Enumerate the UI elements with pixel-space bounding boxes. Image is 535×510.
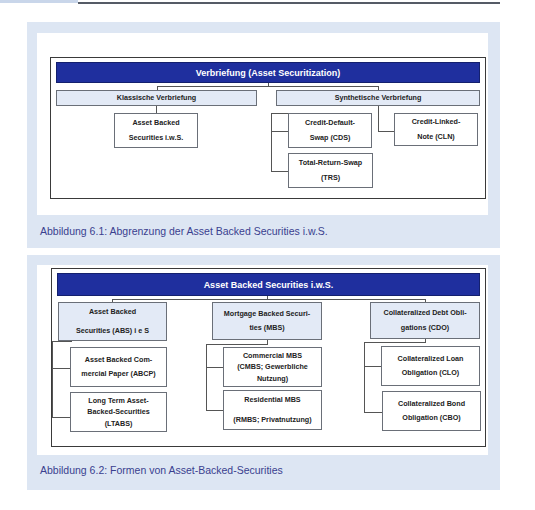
connector [271, 113, 289, 114]
connector [206, 410, 223, 411]
box-residential-mbs: Residential MBS (RMBS; Privatnutzung) [223, 390, 322, 430]
connector [364, 342, 365, 412]
connector [112, 299, 426, 300]
box-commercial-mbs: Commercial MBS (CMBS; Gewerbliche Nutzun… [223, 347, 322, 387]
connector [271, 113, 272, 171]
connector [364, 366, 381, 367]
box-long-term-asset-backed-securities: Long Term Asset- Backed-Securities (LTAB… [70, 392, 167, 432]
connector [206, 344, 268, 345]
connector [364, 412, 382, 413]
box-total-return-swap: Total-Return-Swap (TRS) [288, 153, 373, 188]
connector [271, 171, 288, 172]
figure-2-header: Asset Backed Securities i.w.S. [57, 273, 480, 296]
connector [268, 83, 269, 86]
connector [364, 342, 426, 343]
figure-1-header: Verbriefung (Asset Securitization) [56, 62, 480, 83]
connector [156, 106, 157, 113]
category-mortgage-backed-securities: Mortgage Backed Securi- ties (MBS) [212, 302, 322, 340]
connector [267, 340, 268, 344]
connector [206, 344, 207, 410]
connector [52, 341, 53, 417]
connector [378, 131, 394, 132]
figure-2-caption: Abbildung 6.2: Formen von Asset-Backed-S… [40, 464, 283, 476]
connector [206, 367, 223, 368]
box-asset-backed-commercial-paper: Asset Backed Com- mercial Paper (ABCP) [70, 347, 167, 387]
category-collateralized-debt-obligations: Collateralized Debt Obli- gations (CDO) [370, 302, 480, 339]
connector [52, 417, 70, 418]
box-collateralized-loan-obligation: Collateralized Loan Obligation (CLO) [381, 346, 480, 386]
page-top-rule [78, 2, 500, 4]
box-asset-backed-securities-iws: Asset Backed Securities i.w.S. [114, 113, 198, 148]
figure-1-caption: Abbildung 6.1: Abgrenzung der Asset Back… [40, 225, 328, 237]
box-collateralized-bond-obligation: Collateralized Bond Obligation (CBO) [382, 391, 481, 431]
category-synthetische-verbriefung: Synthetische Verbriefung [276, 90, 480, 106]
connector [425, 339, 426, 342]
box-credit-linked-note: Credit-Linked- Note (CLN) [394, 113, 478, 146]
page-top-tab [0, 0, 78, 3]
connector [271, 131, 288, 132]
connector [267, 296, 268, 299]
box-credit-default-swap: Credit-Default- Swap (CDS) [288, 113, 372, 148]
connector [52, 368, 70, 369]
connector [378, 106, 379, 131]
category-asset-backed-securities-ies: Asset Backed Securities (ABS) i e S [58, 302, 167, 341]
category-klassische-verbriefung: Klassische Verbriefung [56, 90, 257, 106]
connector [52, 341, 72, 342]
connector [157, 86, 379, 87]
